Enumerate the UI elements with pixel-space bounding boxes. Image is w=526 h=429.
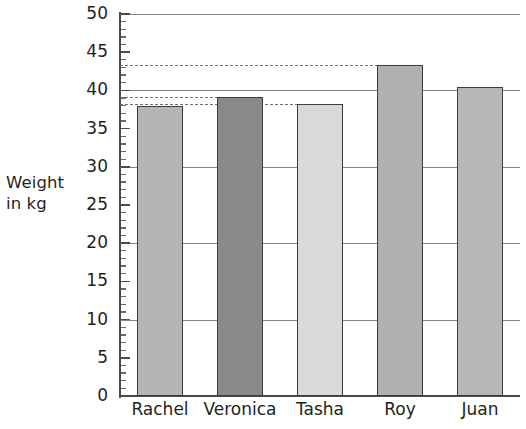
y-tick-minor-33 <box>121 143 126 144</box>
y-tick-minor-34 <box>121 136 126 137</box>
x-axis-label-juan: Juan <box>440 400 520 419</box>
y-tick-minor-17 <box>121 265 126 266</box>
y-tick-minor-3 <box>121 372 126 373</box>
y-tick-minor-26 <box>121 197 126 198</box>
y-tick-minor-22 <box>121 227 126 228</box>
y-tick-major-0 <box>121 395 130 397</box>
y-tick-minor-44 <box>121 59 126 60</box>
y-tick-minor-28 <box>121 181 126 182</box>
y-tick-minor-12 <box>121 304 126 305</box>
y-tick-minor-31 <box>121 159 126 160</box>
y-tick-minor-27 <box>121 189 126 190</box>
y-tick-minor-2 <box>121 380 126 381</box>
y-tick-minor-7 <box>121 342 126 343</box>
y-tick-major-30 <box>121 166 130 168</box>
y-tick-minor-43 <box>121 67 126 68</box>
y-tick-minor-48 <box>121 29 126 30</box>
y-tick-major-40 <box>121 90 130 92</box>
y-tick-minor-49 <box>121 21 126 22</box>
y-tick-major-35 <box>121 128 130 130</box>
bar-roy[interactable] <box>377 65 423 396</box>
y-tick-minor-32 <box>121 151 126 152</box>
y-tick-major-45 <box>121 51 130 53</box>
x-axis-label-roy: Roy <box>360 400 440 419</box>
y-tick-minor-19 <box>121 250 126 251</box>
y-tick-label-50: 50 <box>68 5 108 22</box>
y-axis-label: Weight in kg <box>6 172 72 214</box>
y-tick-minor-9 <box>121 327 126 328</box>
y-tick-major-5 <box>121 357 130 359</box>
y-tick-minor-1 <box>121 388 126 389</box>
y-axis-label-line-2: in kg <box>6 193 72 214</box>
gridline-50 <box>120 14 520 15</box>
x-axis-label-rachel: Rachel <box>120 400 200 419</box>
x-axis-label-tasha: Tasha <box>280 400 360 419</box>
y-tick-minor-13 <box>121 296 126 297</box>
y-tick-label-30: 30 <box>68 158 108 175</box>
bar-rachel[interactable] <box>137 106 183 396</box>
y-tick-major-10 <box>121 319 130 321</box>
y-tick-label-45: 45 <box>68 43 108 60</box>
y-tick-major-15 <box>121 281 130 283</box>
y-tick-minor-23 <box>121 220 126 221</box>
y-tick-label-35: 35 <box>68 120 108 137</box>
y-tick-major-50 <box>121 13 130 15</box>
y-tick-minor-16 <box>121 273 126 274</box>
y-tick-minor-4 <box>121 365 126 366</box>
y-tick-label-0: 0 <box>68 387 108 404</box>
x-axis-label-veronica: Veronica <box>200 400 280 419</box>
y-tick-minor-18 <box>121 258 126 259</box>
bar-juan[interactable] <box>457 87 503 396</box>
y-tick-minor-6 <box>121 350 126 351</box>
y-tick-minor-21 <box>121 235 126 236</box>
plot-area <box>120 14 520 396</box>
y-tick-minor-36 <box>121 120 126 121</box>
y-tick-minor-24 <box>121 212 126 213</box>
y-tick-label-15: 15 <box>68 272 108 289</box>
y-tick-minor-11 <box>121 311 126 312</box>
bar-chart: Weight in kg 05101520253035404550 Rachel… <box>0 0 526 429</box>
y-tick-label-10: 10 <box>68 311 108 328</box>
y-tick-minor-29 <box>121 174 126 175</box>
y-tick-minor-39 <box>121 97 126 98</box>
y-tick-label-20: 20 <box>68 234 108 251</box>
y-tick-major-25 <box>121 204 130 206</box>
y-tick-minor-14 <box>121 288 126 289</box>
y-tick-minor-8 <box>121 334 126 335</box>
y-tick-major-20 <box>121 242 130 244</box>
y-tick-minor-37 <box>121 113 126 114</box>
y-tick-minor-42 <box>121 74 126 75</box>
y-tick-minor-41 <box>121 82 126 83</box>
y-tick-minor-47 <box>121 36 126 37</box>
y-tick-minor-46 <box>121 44 126 45</box>
bar-tasha[interactable] <box>297 104 343 396</box>
y-axis-label-line-1: Weight <box>6 172 72 193</box>
y-tick-minor-38 <box>121 105 126 106</box>
y-tick-label-5: 5 <box>68 349 108 366</box>
y-tick-label-25: 25 <box>68 196 108 213</box>
y-tick-label-40: 40 <box>68 81 108 98</box>
bar-veronica[interactable] <box>217 97 263 396</box>
